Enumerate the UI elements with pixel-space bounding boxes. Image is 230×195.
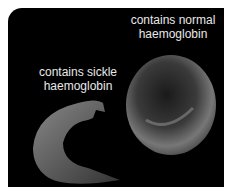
label-line: haemoglobin — [28, 79, 128, 93]
sickle-cell — [33, 101, 120, 184]
normal-red-blood-cell — [126, 55, 216, 155]
label-line: haemoglobin — [120, 27, 224, 41]
micrograph-panel: contains normal haemoglobin contains sic… — [8, 8, 224, 187]
label-line: contains sickle — [28, 65, 128, 79]
label-line: contains normal — [120, 13, 224, 27]
sickle-haemoglobin-label: contains sickle haemoglobin — [28, 65, 128, 93]
normal-haemoglobin-label: contains normal haemoglobin — [120, 13, 224, 41]
